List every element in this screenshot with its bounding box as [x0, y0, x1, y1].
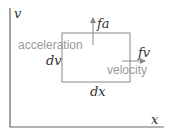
dx-label: dx [90, 84, 106, 99]
dv-label: dv [46, 53, 62, 68]
fa-label: fa [96, 16, 110, 31]
velocity-label: velocity [107, 63, 147, 77]
acceleration-label: acceleration [18, 38, 83, 52]
x-axis-label: x [151, 112, 159, 127]
phase-space-diagram: v x fa fv acceleration velocity dv dx [0, 0, 170, 138]
fv-label: fv [137, 45, 151, 60]
y-axis-label: v [14, 6, 22, 21]
